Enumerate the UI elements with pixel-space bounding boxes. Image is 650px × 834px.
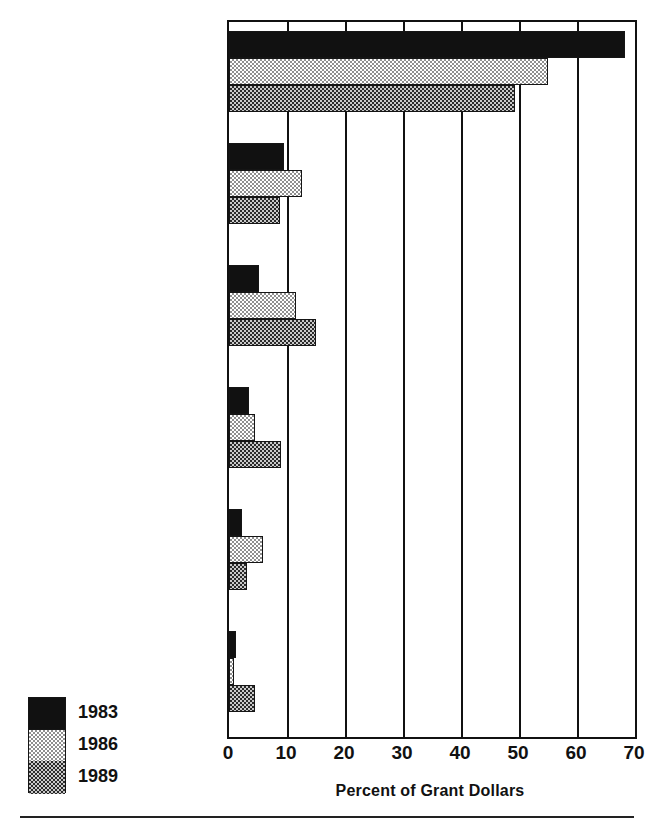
xtick-20: 20 [322, 742, 366, 764]
bar-natural-history-museums-1983 [229, 143, 284, 170]
bar-natural-history-museums-1989 [229, 197, 280, 224]
legend-label-1983: 1983 [78, 702, 118, 723]
gridline-20 [345, 22, 347, 737]
bar-science-technology-museums-1986 [229, 414, 255, 441]
bar-childrens-museums-1983 [229, 509, 242, 536]
bar-art-museums-1989 [229, 85, 515, 112]
legend-swatch-1983-icon [29, 698, 65, 730]
xtick-0: 0 [206, 742, 250, 764]
bar-childrens-museums-1986 [229, 536, 263, 563]
xtick-50: 50 [496, 742, 540, 764]
legend-label-1986: 1986 [78, 734, 118, 755]
xtick-10: 10 [264, 742, 308, 764]
bar-science-technology-museums-1983 [229, 387, 249, 414]
plot-area [227, 20, 637, 739]
xtick-70: 70 [612, 742, 650, 764]
bar-natural-history-museums-1986 [229, 170, 302, 197]
x-axis-title: Percent of Grant Dollars [227, 782, 633, 800]
legend-swatch-1989-icon [29, 761, 65, 794]
bar-ethnic-folk-museums-1989 [229, 685, 255, 712]
gridline-50 [519, 22, 521, 737]
bottom-rule-divider [20, 816, 634, 818]
gridline-30 [403, 22, 405, 737]
gridline-40 [461, 22, 463, 737]
bar-childrens-museums-1989 [229, 563, 247, 590]
bar-history-museums-1986 [229, 292, 296, 319]
bar-art-museums-1986 [229, 58, 548, 85]
bar-ethnic-folk-museums-1983 [229, 631, 236, 658]
bar-art-museums-1983 [229, 31, 625, 58]
bar-ethnic-folk-museums-1986 [229, 658, 234, 685]
bar-history-museums-1989 [229, 319, 316, 346]
xtick-40: 40 [438, 742, 482, 764]
chart-figure: Art Museums Natural History Museums Hist… [0, 0, 650, 834]
bar-science-technology-museums-1989 [229, 441, 281, 468]
gridline-10 [287, 22, 289, 737]
bar-history-museums-1983 [229, 265, 259, 292]
legend-swatch-1986-icon [29, 729, 65, 762]
xtick-30: 30 [380, 742, 424, 764]
legend-label-1989: 1989 [78, 766, 118, 787]
gridline-60 [577, 22, 579, 737]
legend-swatch-stack [28, 697, 66, 793]
xtick-60: 60 [554, 742, 598, 764]
